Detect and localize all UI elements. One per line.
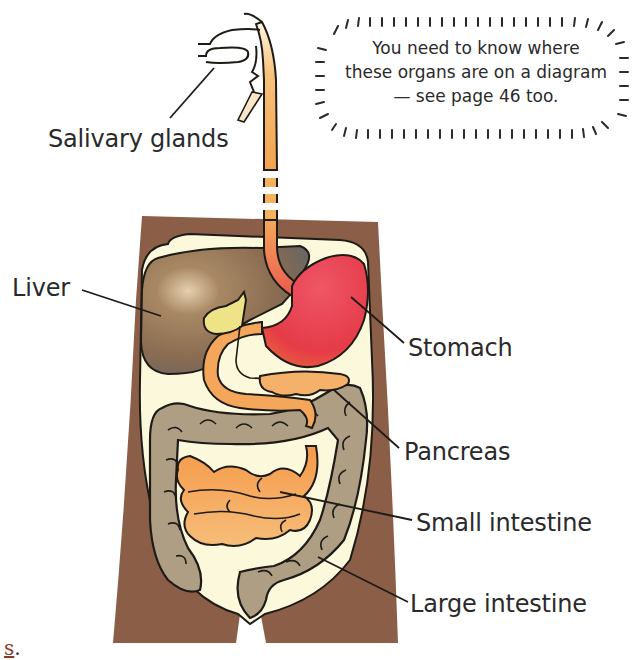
salivary-glands (198, 14, 262, 92)
note-line-3: — see page 46 too. (318, 84, 634, 108)
note-line-1: You need to know where (318, 36, 634, 60)
page-text-fragment: s. (4, 636, 21, 660)
label-large-intestine: Large intestine (410, 592, 587, 616)
leader-salivary (170, 68, 214, 118)
label-stomach: Stomach (408, 336, 512, 360)
note-line-2: these organs are on a diagram (318, 60, 634, 84)
esophagus-dashed-section (264, 178, 277, 219)
label-liver: Liver (12, 276, 70, 300)
fragment-link-text: s (4, 636, 14, 660)
pharynx-branch (238, 92, 262, 122)
label-salivary-glands: Salivary glands (48, 127, 228, 151)
fragment-punct: . (14, 636, 20, 660)
label-pancreas: Pancreas (404, 440, 510, 464)
note-callout: You need to know where these organs are … (318, 22, 634, 132)
label-small-intestine: Small intestine (416, 511, 592, 535)
